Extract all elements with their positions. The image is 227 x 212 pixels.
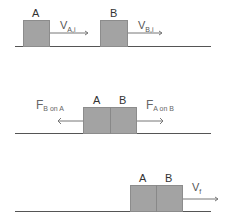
- arrow-right-icon: [137, 118, 163, 124]
- arrow-right-icon: [183, 197, 218, 201]
- arrow-right-icon: [50, 31, 88, 35]
- arrows-layer: [0, 0, 227, 212]
- arrow-left-icon: [58, 118, 83, 124]
- arrow-right-icon: [128, 31, 162, 35]
